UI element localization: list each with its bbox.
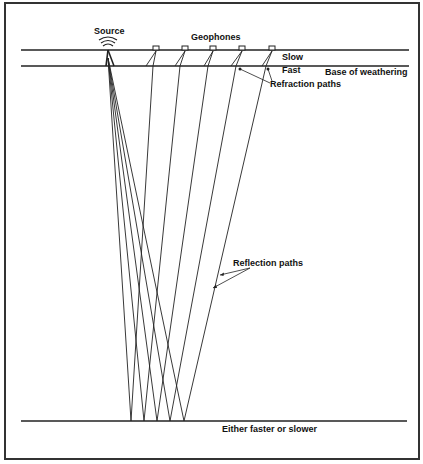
- up-going-rays: [131, 66, 266, 421]
- slow-label: Slow: [282, 52, 303, 62]
- source-wave-icon: [99, 37, 117, 46]
- reflection-paths-label: Reflection paths: [233, 258, 303, 268]
- fast-label: Fast: [282, 65, 301, 75]
- weathering-segments: [146, 51, 272, 66]
- source-label: Source: [94, 26, 125, 36]
- down-going-rays: [108, 58, 184, 421]
- refraction-paths-label: Refraction paths: [270, 79, 341, 89]
- geophones-label: Geophones: [191, 32, 241, 42]
- reflector-label: Either faster or slower: [222, 424, 317, 434]
- source-weathering-ray: [106, 50, 114, 66]
- base-of-weathering-label: Base of weathering: [325, 67, 408, 77]
- refraction-pointers: [240, 69, 272, 83]
